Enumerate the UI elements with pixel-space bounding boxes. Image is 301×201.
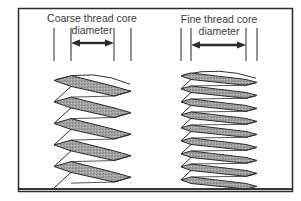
coarse-title-line2: diameter	[42, 24, 142, 36]
thread-flank-shaded	[181, 177, 257, 189]
thread-crest-line	[71, 96, 114, 97]
arrowhead-left-icon	[191, 42, 200, 49]
thread-flank-shaded	[181, 151, 257, 163]
thread-crest-line	[191, 163, 246, 164]
thread-flank-shaded	[181, 125, 257, 137]
thread-flank-shaded	[181, 138, 257, 150]
thread-crest-line	[71, 139, 114, 140]
fine-title-line1: Fine thread core	[169, 13, 269, 25]
fine-thread-title: Fine thread core diameter	[169, 13, 269, 37]
thread-crest-line	[191, 98, 246, 99]
thread-crest-line	[71, 118, 114, 119]
thread-flank-shaded	[54, 97, 131, 117]
thread-crest-line	[191, 124, 246, 125]
thread-flank-shaded	[181, 164, 257, 176]
thread-crest-line	[191, 137, 246, 138]
thread-flank-shaded	[54, 76, 131, 96]
thread-crest-line	[191, 111, 246, 112]
fine-title-line2: diameter	[169, 25, 269, 37]
arrowhead-left-icon	[71, 40, 80, 47]
thread-flank-shaded	[54, 140, 131, 160]
coarse-thread-title: Coarse thread core diameter	[42, 12, 142, 36]
thread-flank-shaded	[181, 112, 257, 124]
coarse-title-line1: Coarse thread core	[42, 12, 142, 24]
thread-flank-shaded	[181, 99, 257, 111]
thread-diameter-diagram: Coarse thread core diameter Fine thread …	[0, 0, 301, 201]
arrowhead-right-icon	[237, 42, 246, 49]
screw-thread-fine	[181, 71, 257, 189]
thread-flank-shaded	[54, 162, 131, 182]
thread-crest-line	[191, 85, 246, 86]
thread-edge	[54, 172, 71, 188]
screw-thread-coarse	[54, 75, 131, 188]
arrowhead-right-icon	[105, 40, 114, 47]
thread-crest-line	[71, 182, 114, 183]
thread-flank-shaded	[54, 119, 131, 139]
thread-flank-shaded	[181, 86, 257, 98]
thread-crest-line	[191, 150, 246, 151]
thread-crest-line	[191, 176, 246, 177]
thread-crest-line	[71, 161, 114, 162]
